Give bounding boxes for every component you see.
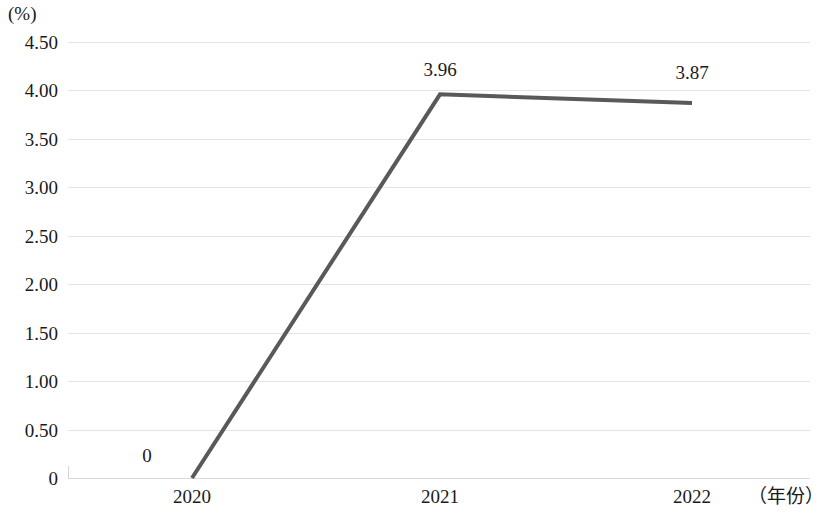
gridline-4-50 xyxy=(68,42,810,43)
y-axis-line xyxy=(68,466,69,479)
y-tick-label: 4.00 xyxy=(0,81,58,100)
y-tick-label: 0.50 xyxy=(0,421,58,440)
data-label-2020: 0 xyxy=(117,446,177,465)
y-axis-unit-label: (%) xyxy=(8,2,36,26)
y-tick-label: 4.50 xyxy=(0,33,58,52)
gridline-2-00 xyxy=(68,284,810,285)
y-tick-label: 0 xyxy=(0,469,58,488)
gridline-1-00 xyxy=(68,381,810,382)
data-label-2021: 3.96 xyxy=(400,60,480,79)
y-tick-label: 2.50 xyxy=(0,227,58,246)
line-chart: (%) （年份） 4.50 4.00 3.50 3.00 2.50 2.00 1… xyxy=(0,0,822,515)
x-axis-baseline xyxy=(68,478,810,479)
gridline-0-50 xyxy=(68,430,810,431)
gridline-3-00 xyxy=(68,187,810,188)
gridline-1-50 xyxy=(68,333,810,334)
y-tick-label: 1.50 xyxy=(0,324,58,343)
gridline-3-50 xyxy=(68,139,810,140)
y-tick-label: 1.00 xyxy=(0,372,58,391)
x-tick-label-2021: 2021 xyxy=(380,486,500,508)
x-tick-label-2022: 2022 xyxy=(632,486,752,508)
y-tick-label: 3.50 xyxy=(0,130,58,149)
plot-area xyxy=(68,42,810,478)
gridline-4-00 xyxy=(68,90,810,91)
x-axis-unit-label: （年份） xyxy=(748,485,822,509)
x-tick-label-2020: 2020 xyxy=(132,486,252,508)
data-label-2022: 3.87 xyxy=(652,63,732,82)
y-tick-label: 3.00 xyxy=(0,178,58,197)
gridline-2-50 xyxy=(68,236,810,237)
y-tick-label: 2.00 xyxy=(0,275,58,294)
